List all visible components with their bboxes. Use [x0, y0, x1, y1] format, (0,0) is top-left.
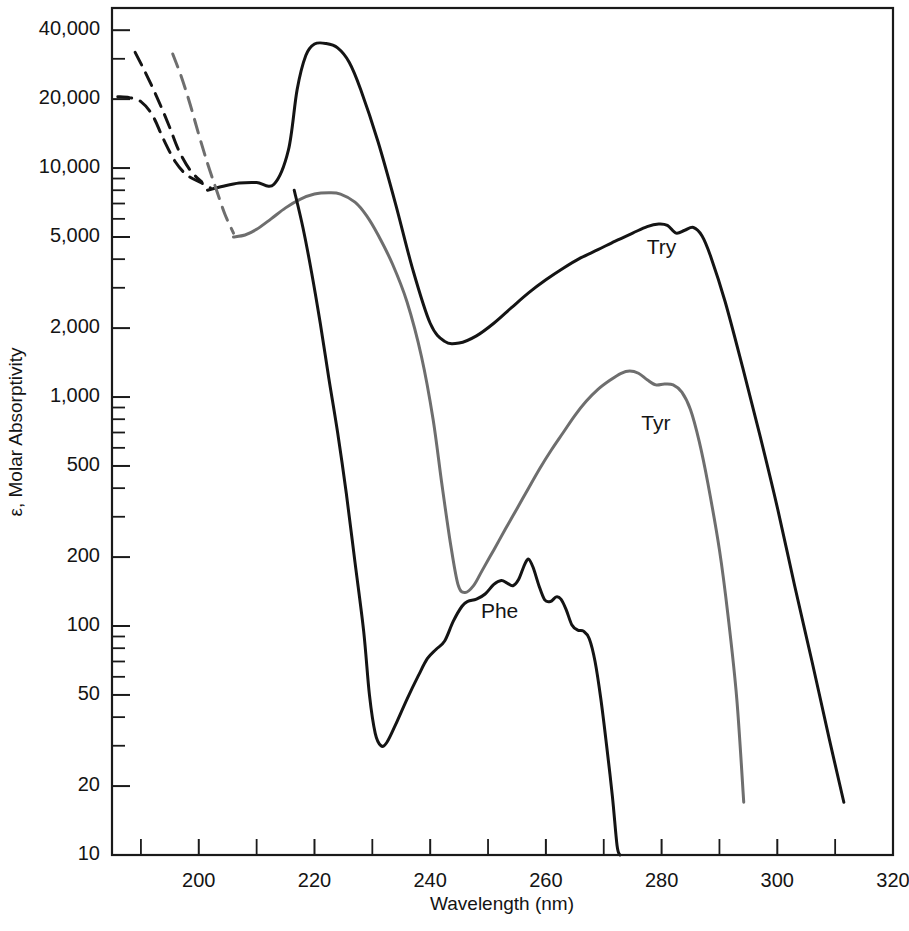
- x-tick-label-320: 320: [876, 869, 909, 891]
- y-tick-label-2000: 2,000: [50, 315, 100, 337]
- x-tick-label-300: 300: [761, 869, 794, 891]
- series-label-try: Try: [647, 235, 677, 258]
- y-tick-label-500: 500: [67, 453, 100, 475]
- y-tick-label-5000: 5,000: [50, 224, 100, 246]
- series-label-phe: Phe: [481, 599, 518, 622]
- plot-frame: [112, 8, 893, 855]
- y-tick-label-100: 100: [67, 613, 100, 635]
- y-tick-label-20: 20: [78, 773, 100, 795]
- absorbance-spectra-chart: 1020501002005001,0002,0005,00010,00020,0…: [0, 0, 909, 931]
- chart-figure: 1020501002005001,0002,0005,00010,00020,0…: [0, 0, 909, 931]
- curve-try-dashed: [118, 97, 211, 188]
- curve-phe: [294, 190, 620, 855]
- series-label-tyr: Tyr: [641, 411, 670, 434]
- x-tick-label-240: 240: [413, 869, 446, 891]
- x-tick-label-280: 280: [645, 869, 678, 891]
- y-tick-label-10: 10: [78, 842, 100, 864]
- y-tick-label-50: 50: [78, 682, 100, 704]
- curve-try: [207, 43, 843, 802]
- y-tick-label-1000: 1,000: [50, 384, 100, 406]
- x-tick-label-260: 260: [529, 869, 562, 891]
- y-tick-label-40000: 40,000: [39, 17, 100, 39]
- x-axis-title: Wavelength (nm): [430, 893, 574, 914]
- curve-tyr-dashed: [173, 54, 234, 233]
- series-annotations: TryTyrPhe: [481, 235, 677, 622]
- curve-try-dashed-upper: [135, 52, 202, 182]
- axis-ticks: [112, 30, 893, 855]
- curve-tyr: [233, 193, 743, 802]
- series-curves: [118, 43, 844, 855]
- y-tick-label-10000: 10,000: [39, 155, 100, 177]
- x-tick-label-220: 220: [298, 869, 331, 891]
- y-tick-label-20000: 20,000: [39, 86, 100, 108]
- x-tick-label-200: 200: [182, 869, 215, 891]
- y-tick-label-200: 200: [67, 544, 100, 566]
- y-axis-title: ε, Molar Absorptivity: [5, 347, 26, 516]
